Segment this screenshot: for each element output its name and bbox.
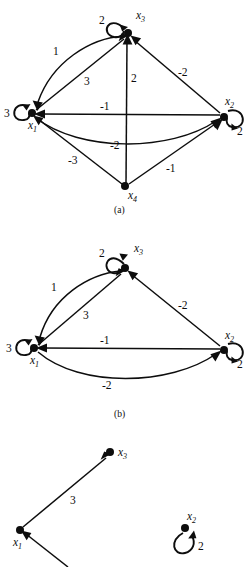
edge-weight-a-x1-x2: -2 — [110, 140, 120, 152]
self-loop-weight-c-x2: 2 — [198, 541, 204, 553]
node-c-x2 — [181, 524, 189, 532]
self-loop-weight-b-x3: 2 — [99, 248, 105, 260]
edge-weight-a-x1-x3: 3 — [84, 76, 90, 88]
edge-weight-b-x1-x2: -2 — [102, 380, 112, 392]
edge-weight-b-x2-x3: -2 — [178, 300, 188, 312]
node-b-x2 — [220, 346, 228, 354]
edge-a-x4-to-x3 — [126, 40, 127, 184]
edge-a-x4-to-x1 — [38, 119, 122, 184]
figure-root: x3 2 x1 3 x2 2 x4 1 3 2 -2 -1 -2 -3 -1 (… — [0, 0, 249, 567]
edge-weight-a-x2-x3: -2 — [178, 67, 188, 79]
node-label-a-x1: x1 — [28, 120, 37, 132]
edge-weight-a-x4-x3: 2 — [131, 73, 137, 85]
self-loop-weight-b-x1: 3 — [6, 343, 12, 355]
arrowhead-b-loop-x3 — [119, 254, 128, 261]
panel-b-graph — [16, 254, 243, 379]
panel-caption-a: (a) — [114, 206, 125, 216]
self-loop-weight-a-x1: 3 — [4, 108, 10, 120]
node-b-x3 — [121, 264, 129, 272]
edge-weight-a-x4-x1: -3 — [68, 155, 78, 167]
edge-weight-a-x4-x2: -1 — [166, 163, 176, 175]
node-b-x1 — [30, 344, 38, 352]
edge-weight-b-x3-x1: 1 — [51, 282, 57, 294]
node-c-x3 — [106, 448, 114, 456]
edge-weight-a-x3-x1: 1 — [53, 46, 59, 58]
node-c-x1 — [16, 526, 24, 534]
edge-weight-a-x2-x1: -1 — [100, 101, 110, 113]
node-a-x2 — [220, 113, 228, 121]
node-label-a-x3: x3 — [136, 10, 145, 22]
edge-c-x1-to-x3 — [23, 458, 106, 527]
arrowhead-b-x1-to-x2 — [210, 351, 221, 362]
self-loop-weight-a-x3: 2 — [99, 15, 105, 27]
edge-a-x3-to-x1 — [38, 36, 124, 102]
panel-caption-b: (b) — [114, 410, 125, 420]
edge-a-x2-to-x1 — [40, 114, 220, 115]
node-label-a-x2: x2 — [225, 96, 234, 108]
self-loop-weight-b-x2: 2 — [237, 359, 243, 371]
edge-weight-b-x2-x1: -1 — [100, 335, 110, 347]
edge-weight-b-x1-x3: 3 — [83, 310, 89, 322]
edge-a-x4-to-x2 — [129, 122, 218, 184]
self-loop-weight-a-x2: 2 — [237, 126, 243, 138]
edge-weight-c-x1-x3: 3 — [70, 495, 76, 507]
panel-a-graph — [14, 23, 243, 190]
node-a-x1 — [28, 109, 36, 117]
edge-a-x2-to-x3 — [134, 40, 220, 113]
panel-c-graph — [16, 448, 196, 567]
edge-b-x2-to-x1 — [42, 348, 220, 349]
node-label-b-x2: x2 — [225, 330, 234, 342]
edge-b-x2-to-x3 — [131, 274, 220, 346]
node-label-b-x3: x3 — [134, 243, 143, 255]
node-label-a-x4: x4 — [128, 190, 137, 202]
node-label-b-x1: x1 — [30, 355, 39, 367]
node-a-x3 — [124, 29, 132, 37]
node-label-c-x3: x3 — [118, 447, 127, 459]
node-label-c-x2: x2 — [187, 511, 196, 523]
graph-drawing-layer — [0, 0, 249, 567]
arrowhead-c-loop-x2 — [188, 531, 196, 539]
edge-b-x1-to-x2 — [38, 352, 216, 379]
node-label-c-x1: x1 — [13, 537, 22, 549]
edge-c-incoming-to-x1 — [26, 534, 68, 567]
